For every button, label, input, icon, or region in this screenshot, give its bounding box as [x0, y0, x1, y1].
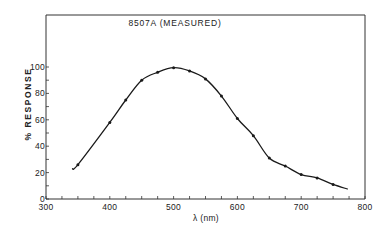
chart-title: 8507A (MEASURED) [128, 18, 221, 28]
x-tick-label: 500 [166, 202, 181, 212]
data-point-markers [76, 66, 334, 186]
data-point [156, 71, 159, 74]
x-axis-label: λ (nm) [193, 213, 219, 223]
x-tick-label: 800 [357, 202, 372, 212]
data-point [300, 173, 303, 176]
data-point [172, 66, 175, 69]
data-point [108, 121, 111, 124]
x-tick-label: 400 [102, 202, 117, 212]
data-point [204, 77, 207, 80]
response-curve [72, 68, 348, 189]
data-point [124, 99, 127, 102]
data-point [140, 79, 143, 82]
y-tick-label: 40 [35, 141, 45, 151]
data-point [332, 183, 335, 186]
y-tick-label: 80 [35, 88, 45, 98]
y-tick-label: 0 [40, 194, 45, 204]
x-tick-label: 700 [294, 202, 309, 212]
y-tick-label: 20 [35, 168, 45, 178]
axis-tick-labels: 300400500600700800020406080100 [30, 62, 373, 212]
response-line [72, 68, 348, 189]
data-point [220, 95, 223, 98]
y-tick-label: 60 [35, 115, 45, 125]
data-point [316, 176, 319, 179]
data-point [268, 157, 271, 160]
x-tick-label: 600 [230, 202, 245, 212]
data-point [252, 134, 255, 137]
data-point [284, 165, 287, 168]
data-point [188, 69, 191, 72]
data-point [76, 163, 79, 166]
plot-frame [46, 15, 365, 199]
y-axis-label: % RESPONSE [23, 67, 33, 140]
chart-container: 300400500600700800020406080100 8507A (ME… [0, 0, 389, 231]
data-point [236, 117, 239, 120]
line-chart: 300400500600700800020406080100 8507A (ME… [0, 0, 389, 231]
